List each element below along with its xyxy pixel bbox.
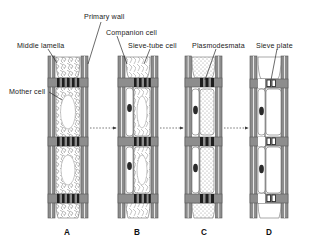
stage-letter-d: D (266, 228, 272, 237)
stage-C-cross-wall-upper (185, 78, 222, 87)
plasmodesma (144, 78, 147, 87)
plasmodesma (77, 137, 79, 146)
plasmodesma (211, 137, 214, 146)
plasmodesma (57, 78, 60, 87)
stage-C-cell-upper (192, 57, 215, 78)
plasmodesma (200, 137, 203, 146)
plasmodesma (144, 137, 147, 146)
stage-B-cell-file (118, 56, 158, 218)
plasmodesma (67, 137, 70, 146)
stage-A-cell-upper (56, 57, 80, 78)
label-plasmodesmata: Plasmodesmata (192, 42, 245, 50)
stage-D-sieve-plate-bottom (250, 194, 288, 203)
sieve-pore (272, 80, 275, 87)
plasmodesma (62, 137, 65, 146)
plasmodesma (139, 137, 142, 146)
plasmodesma (200, 78, 203, 87)
stage-D-companion-cell-nucleus (259, 107, 264, 115)
stage-D-cell-bottom (258, 203, 281, 218)
plasmodesma (67, 78, 70, 87)
stage-A-cell-bottom (56, 203, 80, 218)
sieve-tube-development-diagram (0, 0, 310, 249)
plasmodesma (144, 194, 147, 203)
plasmodesma (134, 137, 137, 146)
stage-C-companion-cell-nucleus (193, 164, 198, 172)
stage-B-companion-cell-nucleus (127, 162, 132, 170)
plasmodesma (72, 78, 75, 87)
plasmodesma (149, 194, 151, 203)
label-primary-wall: Primary wall (84, 13, 124, 21)
plasmodesma (139, 194, 142, 203)
plasmodesma (211, 194, 214, 203)
label-companion-cell: Companion cell (106, 29, 157, 37)
plasmodesma (134, 194, 137, 203)
stage-D-cell-file (250, 56, 288, 218)
plasmodesma (149, 78, 151, 87)
sieve-pore (267, 138, 270, 145)
stage-C-sieve-tube-cell (200, 89, 214, 135)
sieve-pore (272, 138, 275, 145)
plasmodesma (139, 78, 142, 87)
plasmodesma (206, 194, 209, 203)
stage-letter-b: B (134, 228, 140, 237)
label-sieve-plate: Sieve plate (256, 42, 293, 50)
stage-D-cell-upper (258, 57, 281, 79)
stage-B-cell-bottom (126, 203, 150, 218)
leader-primary-wall (88, 22, 101, 64)
label-mother-cell: Mother cell (9, 88, 45, 96)
plasmodesma (57, 194, 60, 203)
sieve-pore (272, 195, 275, 202)
stage-D-sieve-plate-lower (250, 137, 288, 146)
label-middle-lamella: Middle lamella (17, 42, 64, 50)
plasmodesma (57, 137, 60, 146)
plasmodesma (62, 194, 65, 203)
plasmodesma (72, 194, 75, 203)
stage-B-companion-cell-nucleus (127, 104, 132, 112)
stage-letter-c: C (201, 228, 207, 237)
stage-C-cross-wall-bottom (185, 194, 222, 203)
plasmodesma (77, 78, 79, 87)
figure-canvas: Primary wall Companion cell Middle lamel… (0, 0, 310, 249)
stage-letter-a: A (64, 228, 70, 237)
stage-C-companion-cell-nucleus (193, 106, 198, 114)
stage-A-cross-wall-bottom (48, 194, 88, 203)
stage-B-cross-wall-lower (118, 137, 158, 146)
stage-D-sieve-tube-element (266, 89, 281, 135)
stage-B-cross-wall-upper (118, 78, 158, 87)
stage-C-sieve-tube-cell (200, 147, 214, 193)
plasmodesma (77, 194, 79, 203)
sieve-pore (267, 195, 270, 202)
stage-C-cell-file (185, 56, 222, 218)
plasmodesma (62, 78, 65, 87)
plasmodesma (206, 137, 209, 146)
stage-A-cross-wall-lower (48, 137, 88, 146)
stage-A-cell-file (48, 56, 88, 218)
sieve-pore (267, 80, 270, 87)
stage-D-companion-cell-nucleus (259, 165, 264, 173)
plasmodesma (67, 194, 70, 203)
plasmodesma (211, 78, 214, 87)
plasmodesma (200, 194, 203, 203)
label-sieve-tube-cell: Sieve-tube cell (128, 42, 177, 50)
plasmodesma (72, 137, 75, 146)
plasmodesma (206, 78, 209, 87)
plasmodesma (134, 78, 137, 87)
stage-B-cell-upper (126, 57, 150, 78)
plasmodesma (149, 137, 151, 146)
stage-D-sieve-tube-element (266, 147, 281, 193)
stage-C-cell-bottom (192, 203, 215, 218)
stage-C-cross-wall-lower (185, 137, 222, 146)
stage-D-sieve-plate-upper (250, 79, 288, 88)
stage-A-cross-wall-upper (48, 78, 88, 87)
stage-B-cross-wall-bottom (118, 194, 158, 203)
